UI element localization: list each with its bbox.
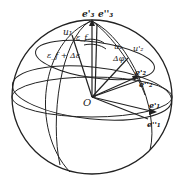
label-e2-prime: e'₂ [135, 68, 146, 76]
meridian-4 [56, 21, 90, 165]
arc-ef2 [84, 44, 106, 49]
label-origin: O [83, 98, 91, 108]
label-e1-prime: e'₁ [149, 101, 160, 109]
label-u1: u₁ [63, 28, 72, 37]
sphere-diagram [0, 0, 182, 180]
label-epsilon-f-plus-delta: ε_f + Δε [47, 52, 80, 60]
label-e2-double-prime: e''₂ [139, 80, 153, 88]
label-delta-phi: Δφ [113, 55, 124, 63]
label-epsilon-f: ε_f [76, 34, 87, 42]
label-e1-double-prime: e''₁ [147, 120, 161, 128]
label-u2-prime: u'₂ [133, 45, 144, 53]
label-e3-double-prime: e''₃ [98, 10, 113, 19]
label-e3-prime: e'₃ [82, 10, 94, 19]
label-u2: u₂ [114, 43, 122, 51]
vector-e3pp [95, 24, 97, 97]
